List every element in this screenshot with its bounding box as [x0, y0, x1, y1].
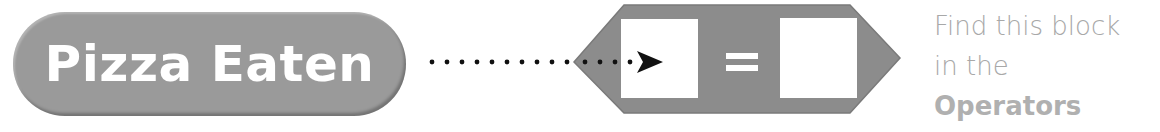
caption-line-2: in the Operators: [934, 46, 1160, 126]
caption: Find this block in the Operators categor…: [934, 6, 1160, 132]
equals-operator-block[interactable]: [574, 5, 900, 113]
caption-line-1: Find this block: [934, 6, 1160, 46]
operators-category-label: Operators: [934, 91, 1081, 121]
equals-sign-icon: [726, 53, 758, 59]
left-input-slot: [621, 19, 698, 98]
caption-line-3: category.: [934, 126, 1160, 132]
right-input-slot: [780, 18, 857, 98]
